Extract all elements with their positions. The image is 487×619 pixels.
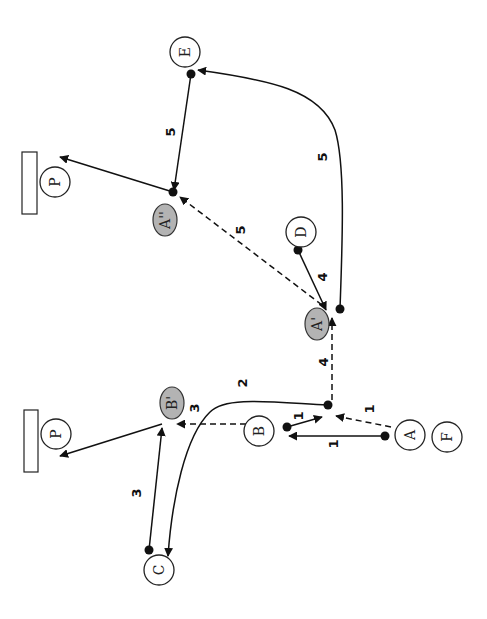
node-d-label: D: [293, 226, 309, 237]
edge-a-double-prime-p: [60, 157, 173, 192]
dot-a: [381, 432, 390, 441]
diagram-svg: E P A'' D A' B': [0, 0, 487, 619]
node-b-prime-label: B': [164, 396, 180, 410]
edge-label: 1: [326, 439, 341, 448]
node-e[interactable]: E: [170, 37, 200, 67]
node-p-top-label: P: [47, 177, 63, 186]
node-a-double-prime[interactable]: A'': [153, 204, 177, 236]
node-a-double-prime-label: A'': [157, 211, 173, 230]
nodes: E P A'' D A' B': [40, 37, 462, 585]
edge-label: 1: [291, 411, 306, 420]
edge-label: 5: [315, 152, 330, 161]
edge-a-junction: [336, 416, 391, 427]
node-b-label: B: [251, 426, 267, 436]
edge-c-b-prime: [149, 428, 162, 550]
edge-b-prime-p: [60, 424, 162, 456]
node-a-prime-label: A': [309, 317, 325, 332]
dot-c: [145, 546, 154, 555]
dot-a-prime: [336, 305, 345, 314]
edge-label: 5: [233, 225, 248, 234]
edge-label: 4: [316, 357, 331, 366]
node-b-prime[interactable]: B': [160, 387, 184, 419]
edge-label: 5: [163, 127, 178, 136]
node-p-top[interactable]: P: [40, 167, 70, 197]
edge-label: 2: [235, 378, 250, 387]
node-c[interactable]: C: [144, 555, 174, 585]
node-a[interactable]: A: [395, 420, 425, 450]
node-c-label: C: [151, 565, 167, 576]
node-p-bottom[interactable]: P: [41, 419, 71, 449]
target-rect-top: [22, 152, 37, 214]
node-b[interactable]: B: [244, 416, 274, 446]
node-p-bottom-label: P: [48, 429, 64, 438]
dot-b: [283, 423, 292, 432]
node-e-label: E: [177, 47, 193, 57]
node-a-prime[interactable]: A': [305, 308, 329, 340]
edge-label: 3: [129, 488, 144, 497]
target-rect-bottom: [24, 410, 38, 472]
edge-label: 3: [187, 403, 202, 412]
edge-label: 1: [362, 404, 377, 413]
dot-junction: [324, 401, 333, 410]
node-d[interactable]: D: [286, 217, 316, 247]
edge-label: 4: [315, 272, 330, 281]
dot-e: [187, 70, 196, 79]
dot-a-double-prime: [169, 188, 178, 197]
node-f[interactable]: F: [432, 422, 462, 452]
diagram-canvas: E P A'' D A' B': [0, 0, 487, 619]
node-a-label: A: [402, 429, 418, 441]
node-f-label: F: [439, 432, 455, 442]
